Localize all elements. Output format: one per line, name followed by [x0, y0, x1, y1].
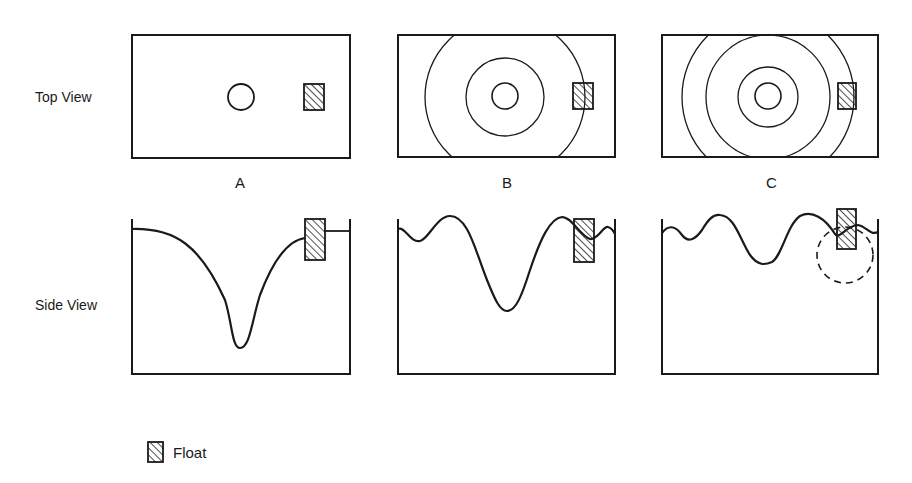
top-view-c — [662, 11, 878, 183]
side-view-a — [132, 219, 350, 374]
float-icon — [837, 209, 856, 249]
legend-label-float: Float — [173, 444, 206, 461]
float-icon — [573, 83, 593, 109]
row-label-side-view: Side View — [35, 297, 97, 313]
top-view-a — [132, 35, 350, 158]
ripple-origin-a — [228, 84, 254, 110]
top-view-b — [398, 17, 615, 177]
float-icon — [304, 84, 324, 110]
float-icon — [305, 219, 325, 260]
side-view-b — [398, 216, 615, 374]
panel-label-a: A — [235, 174, 245, 191]
float-legend-icon — [147, 440, 165, 464]
panel-label-c: C — [766, 174, 777, 191]
legend: Float — [147, 440, 206, 464]
wave-float-diagram — [0, 0, 912, 483]
panel-label-b: B — [502, 174, 512, 191]
float-icon — [838, 83, 856, 109]
row-label-top-view: Top View — [35, 89, 92, 105]
float-icon — [574, 219, 594, 262]
side-view-c — [662, 209, 878, 374]
